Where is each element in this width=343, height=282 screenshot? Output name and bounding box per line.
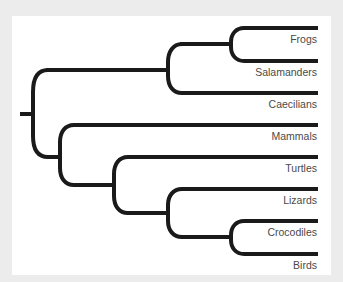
taxon-label-lizards: Lizards (283, 194, 317, 206)
taxon-label-turtles: Turtles (285, 162, 317, 174)
taxon-label-mammals: Mammals (271, 130, 317, 142)
root-node (33, 70, 62, 157)
taxon-label-crocodiles: Crocodiles (267, 226, 317, 238)
taxon-label-birds: Birds (293, 259, 317, 271)
taxon-label-caecilians: Caecilians (269, 98, 317, 110)
taxon-label-salamanders: Salamanders (255, 66, 317, 78)
taxon-label-frogs: Frogs (290, 33, 317, 45)
